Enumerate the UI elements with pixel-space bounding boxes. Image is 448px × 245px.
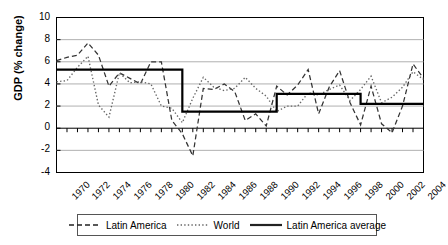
chart-legend: Latin AmericaWorldLatin America average xyxy=(77,214,377,236)
legend-swatch-solid xyxy=(249,220,283,230)
legend-item: Latin America xyxy=(68,220,167,231)
legend-item: World xyxy=(176,220,240,231)
legend-label: World xyxy=(214,220,240,231)
legend-item: Latin America average xyxy=(249,220,387,231)
legend-label: Latin America average xyxy=(287,220,387,231)
legend-swatch-dotted xyxy=(176,220,210,230)
legend-label: Latin America xyxy=(106,220,167,231)
series-line-latin-america-average xyxy=(57,70,424,112)
legend-swatch-dashed xyxy=(68,220,102,230)
series-line-latin-america xyxy=(57,43,424,156)
series-line-world xyxy=(57,56,424,122)
